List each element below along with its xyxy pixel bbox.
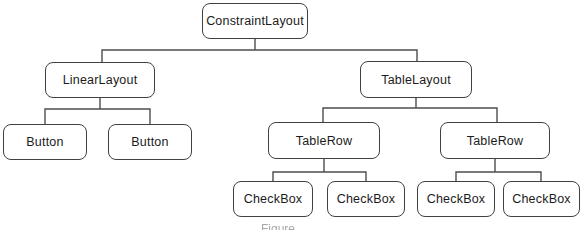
tree-node-button-2: Button: [108, 124, 192, 160]
tree-node-label: TableRow: [296, 134, 353, 148]
tree-node-checkbox-4: CheckBox: [503, 181, 580, 217]
tree-node-checkbox-1: CheckBox: [233, 181, 313, 217]
figure-caption: Figure: [261, 222, 295, 230]
tree-node-label: TableLayout: [381, 73, 451, 87]
tree-node-checkbox-3: CheckBox: [417, 181, 495, 217]
tree-node-label: CheckBox: [427, 192, 486, 206]
tree-node-label: ConstraintLayout: [206, 14, 304, 28]
tree-node-button-1: Button: [3, 124, 87, 160]
tree-node-checkbox-2: CheckBox: [327, 181, 405, 217]
tree-node-label: Button: [26, 135, 63, 149]
tree-node-label: CheckBox: [244, 192, 303, 206]
tree-node-label: LinearLayout: [63, 73, 138, 87]
tree-node-tablerow-1: TableRow: [268, 122, 380, 159]
tree-node-tablerow-2: TableRow: [440, 122, 550, 159]
tree-node-tablelayout: TableLayout: [360, 61, 472, 98]
tree-node-linearlayout: LinearLayout: [45, 62, 155, 98]
tree-diagram: ConstraintLayout LinearLayout TableLayou…: [0, 0, 581, 230]
tree-node-label: TableRow: [467, 134, 524, 148]
tree-node-constraintlayout: ConstraintLayout: [202, 3, 308, 39]
tree-node-label: CheckBox: [512, 192, 571, 206]
tree-node-label: Button: [131, 135, 168, 149]
tree-node-label: CheckBox: [337, 192, 396, 206]
